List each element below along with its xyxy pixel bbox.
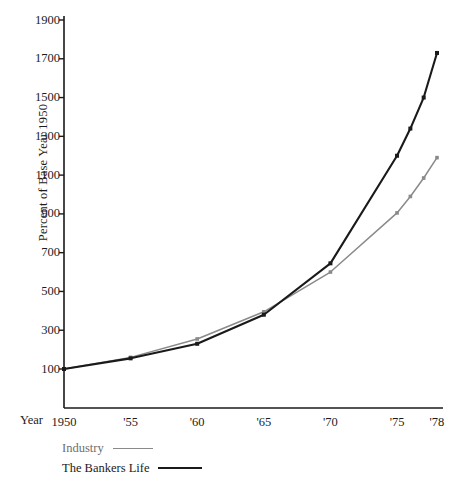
- series-industry: [62, 156, 439, 371]
- data-point-marker: [62, 367, 66, 371]
- data-series-layer: [62, 51, 439, 371]
- legend-item-industry: Industry: [62, 438, 392, 458]
- axis-lines: [59, 16, 443, 408]
- data-point-marker: [395, 211, 399, 215]
- x-tick-label: '60: [190, 416, 205, 429]
- data-point-marker: [422, 176, 426, 180]
- data-point-marker: [409, 195, 413, 199]
- data-point-marker: [262, 313, 266, 317]
- series-line: [64, 53, 437, 369]
- x-tick-label: '55: [123, 416, 138, 429]
- x-tick-label: 1950: [52, 416, 77, 429]
- data-point-marker: [195, 342, 199, 346]
- data-point-marker: [408, 127, 412, 131]
- legend-label-industry: Industry: [62, 441, 104, 456]
- data-point-marker: [435, 156, 439, 160]
- legend-swatch-bankers-life: [158, 467, 202, 469]
- data-point-marker: [129, 356, 133, 360]
- data-point-marker: [328, 261, 332, 265]
- data-point-marker: [329, 270, 333, 274]
- legend-swatch-industry: [113, 448, 153, 449]
- series-line: [64, 158, 437, 369]
- legend-label-bankers-life: The Bankers Life: [62, 461, 149, 476]
- series-the-bankers-life: [62, 51, 439, 371]
- data-point-marker: [435, 51, 439, 55]
- legend-item-bankers-life: The Bankers Life: [62, 458, 392, 478]
- chart-legend: Industry The Bankers Life: [62, 438, 392, 478]
- data-point-marker: [395, 154, 399, 158]
- x-tick-label: '70: [323, 416, 338, 429]
- data-point-marker: [422, 96, 426, 100]
- x-tick-label: '75: [390, 416, 405, 429]
- x-axis-title: Year: [20, 414, 43, 427]
- data-point-marker: [195, 337, 199, 341]
- x-tick-label: '78: [430, 416, 445, 429]
- x-axis-tick-labels: Year 1950'55'60'65'70'75'78: [0, 414, 461, 436]
- x-tick-label: '65: [256, 416, 271, 429]
- chart-figure: Percent of Base Year 1950 10030050070090…: [0, 0, 461, 489]
